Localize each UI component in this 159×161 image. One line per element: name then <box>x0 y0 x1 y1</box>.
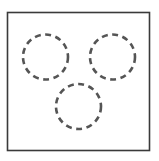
dashed-circle-top-right <box>90 35 135 80</box>
dashed-circle-bottom-center <box>56 84 101 129</box>
diagram-canvas <box>0 0 159 161</box>
dashed-circle-top-left <box>23 35 68 80</box>
